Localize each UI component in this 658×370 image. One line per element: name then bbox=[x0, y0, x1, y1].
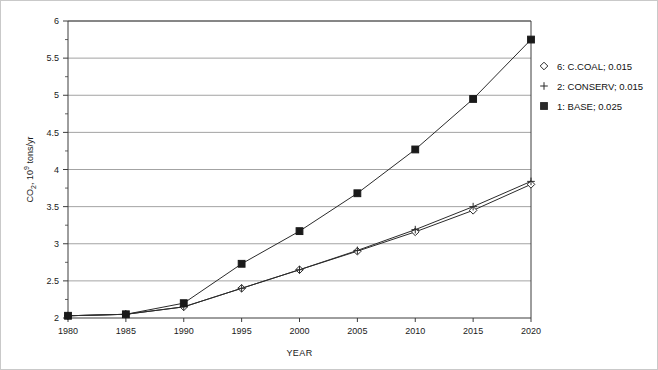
x-axis-title: YEAR bbox=[286, 348, 312, 358]
legend-item[interactable]: 2: CONSERV; 0.015 bbox=[535, 76, 655, 96]
x-tick-label: 2015 bbox=[463, 326, 483, 336]
x-tick-label: 2005 bbox=[347, 326, 367, 336]
marker-diamond bbox=[540, 62, 548, 70]
legend-item[interactable]: 6: C.COAL; 0.015 bbox=[535, 56, 655, 76]
x-tick-labels: 198019851990199520002005201020152020 bbox=[58, 326, 541, 336]
x-tick-label: 2020 bbox=[521, 326, 541, 336]
legend-diamond-open-icon bbox=[535, 59, 553, 73]
marker-plus bbox=[540, 82, 548, 90]
marker-plus bbox=[296, 266, 304, 274]
marker-square bbox=[296, 228, 303, 235]
data-series bbox=[64, 36, 535, 319]
y-tick-label: 4.5 bbox=[46, 128, 59, 138]
marker-square bbox=[238, 260, 245, 267]
y-tick-label: 4 bbox=[54, 165, 59, 175]
legend-square-filled-icon bbox=[535, 99, 553, 113]
grid-lines bbox=[68, 21, 531, 281]
marker-plus bbox=[238, 285, 246, 293]
series-line bbox=[68, 181, 531, 315]
y-tick-label: 3 bbox=[54, 239, 59, 249]
series-line bbox=[68, 184, 531, 315]
series-group bbox=[64, 178, 535, 320]
chart-figure: 22.533.544.555.56 1980198519901995200020… bbox=[0, 0, 658, 370]
y-tick-label: 2 bbox=[54, 313, 59, 323]
y-tick-label: 3.5 bbox=[46, 202, 59, 212]
y-tick-label: 5 bbox=[54, 90, 59, 100]
series-line bbox=[68, 40, 531, 316]
axis-ticks bbox=[63, 21, 531, 322]
marker-square bbox=[65, 312, 72, 319]
x-tick-label: 1990 bbox=[174, 326, 194, 336]
legend-item[interactable]: 1: BASE; 0.025 bbox=[535, 96, 655, 116]
x-tick-label: 1980 bbox=[58, 326, 78, 336]
series-group bbox=[64, 181, 535, 320]
y-tick-label: 2.5 bbox=[46, 276, 59, 286]
x-tick-label: 1995 bbox=[232, 326, 252, 336]
marker-square bbox=[180, 300, 187, 307]
marker-square bbox=[470, 96, 477, 103]
x-tick-label: 2000 bbox=[289, 326, 309, 336]
y-tick-labels: 22.533.544.555.56 bbox=[46, 16, 59, 323]
x-tick-label: 2010 bbox=[405, 326, 425, 336]
marker-square bbox=[541, 103, 548, 110]
legend-item-label: 6: C.COAL; 0.015 bbox=[553, 61, 632, 72]
legend-item-label: 1: BASE; 0.025 bbox=[553, 101, 622, 112]
series-group bbox=[65, 36, 535, 319]
y-axis-title: CO2, 109 tons/yr bbox=[23, 137, 37, 203]
legend-item-label: 2: CONSERV; 0.015 bbox=[553, 81, 643, 92]
marker-square bbox=[528, 36, 535, 43]
y-tick-label: 5.5 bbox=[46, 53, 59, 63]
marker-square bbox=[412, 146, 419, 153]
x-tick-label: 1985 bbox=[116, 326, 136, 336]
legend-plus-icon bbox=[535, 79, 553, 93]
marker-square bbox=[354, 190, 361, 197]
chart-legend: 6: C.COAL; 0.0152: CONSERV; 0.0151: BASE… bbox=[535, 56, 655, 116]
marker-plus bbox=[354, 247, 362, 255]
marker-square bbox=[122, 311, 129, 318]
y-tick-label: 6 bbox=[54, 16, 59, 26]
